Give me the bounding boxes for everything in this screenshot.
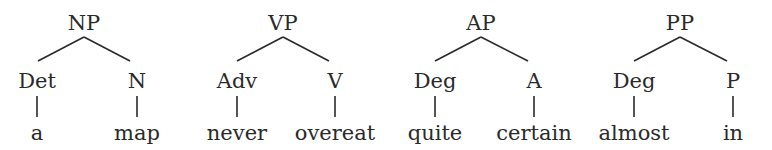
category-label: Deg xyxy=(613,69,656,93)
branch-left xyxy=(237,37,283,61)
leaf-word: in xyxy=(723,121,743,145)
leaf-word: certain xyxy=(496,121,571,145)
leaf-word: almost xyxy=(598,121,670,145)
branch-right xyxy=(481,37,528,61)
leaf-word: map xyxy=(114,121,160,145)
category-label: V xyxy=(326,69,343,93)
tree-vp: VP Adv V never overeat xyxy=(207,11,376,145)
leaf-word: never xyxy=(207,121,268,145)
category-label: P xyxy=(726,69,740,93)
branch-left xyxy=(435,37,481,61)
root-label: PP xyxy=(666,11,694,35)
root-label: NP xyxy=(68,11,101,35)
category-label: Deg xyxy=(414,69,457,93)
tree-ap: AP Deg A quite certain xyxy=(408,11,572,145)
tree-pp: PP Deg P almost in xyxy=(598,11,743,145)
category-label: Adv xyxy=(216,69,258,93)
branch-right xyxy=(84,37,130,61)
leaf-word: overeat xyxy=(295,121,376,145)
category-label: Det xyxy=(18,69,56,93)
syntax-tree-diagram: NP Det N a map VP Adv V never overeat AP… xyxy=(0,0,772,150)
category-label: A xyxy=(525,69,542,93)
tree-np: NP Det N a map xyxy=(18,11,160,145)
root-label: VP xyxy=(267,11,297,35)
branch-right xyxy=(283,37,329,61)
category-label: N xyxy=(128,69,146,93)
branch-left xyxy=(38,37,84,61)
branch-right xyxy=(680,37,727,61)
leaf-word: quite xyxy=(408,121,463,145)
leaf-word: a xyxy=(31,121,44,145)
branch-left xyxy=(634,37,680,61)
root-label: AP xyxy=(465,11,495,35)
